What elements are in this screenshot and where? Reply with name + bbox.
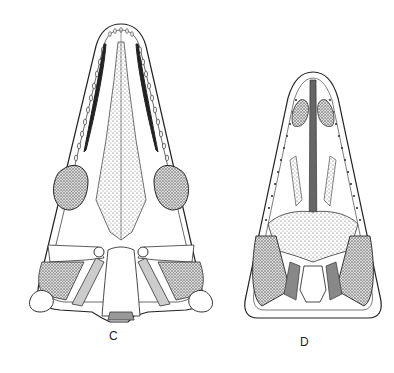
- panel-label-c: C: [109, 329, 118, 343]
- skull-c-basisphenoid: [102, 247, 140, 316]
- panel-label-d: D: [300, 335, 309, 349]
- skull-d-basioccipital: [300, 266, 326, 302]
- skull-c-articular-left: [29, 290, 53, 312]
- skull-d: [245, 72, 382, 318]
- figure-canvas: [0, 0, 394, 373]
- skull-c-condyle-right: [138, 247, 148, 257]
- skull-c-articular-right: [189, 290, 213, 312]
- skull-c-condyle-left: [94, 247, 104, 257]
- skull-c-occipital: [108, 312, 134, 320]
- skull-c: [29, 24, 212, 322]
